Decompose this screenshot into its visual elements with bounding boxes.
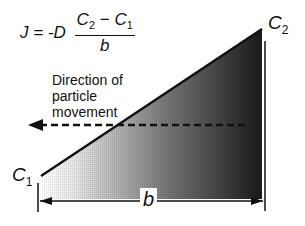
flux-symbol: J: [20, 23, 29, 42]
c2-symbol: C: [77, 10, 89, 29]
c1-subscript: 1: [127, 19, 133, 31]
c2-label: C2: [268, 12, 288, 37]
b-label: b: [140, 188, 157, 211]
direction-label: Direction of particle movement: [52, 72, 123, 120]
fraction: C2 − C1 b: [75, 10, 135, 56]
c1-symbol: C: [114, 10, 126, 29]
arrow-left-icon: [28, 119, 43, 131]
c1-letter: C: [12, 164, 26, 185]
c2-subscript: 2: [89, 19, 95, 31]
equals-sign: =: [33, 23, 43, 42]
direction-label-line-3: movement: [52, 104, 123, 120]
minus-sign: −: [100, 10, 110, 29]
direction-label-line-2: particle: [52, 88, 123, 104]
c1-label-subscript: 1: [26, 175, 33, 189]
direction-label-line-1: Direction of: [52, 72, 123, 88]
fraction-denominator: b: [75, 36, 135, 56]
c1-label: C1: [12, 164, 32, 189]
c2-label-subscript: 2: [282, 23, 289, 37]
diffusion-coefficient: -D: [48, 23, 66, 42]
c2-letter: C: [268, 12, 282, 33]
flux-equation: J = -D C2 − C1 b: [20, 10, 135, 56]
fraction-numerator: C2 − C1: [75, 10, 135, 36]
